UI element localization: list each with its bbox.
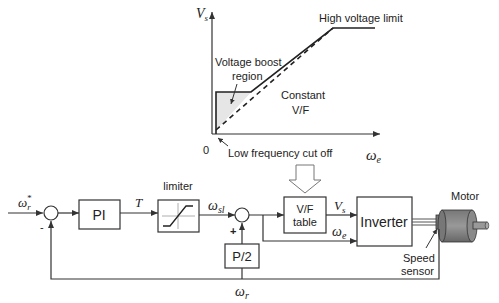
low-freq-cutoff-label: Low frequency cut off	[228, 147, 333, 159]
voltage-boost-label-2: region	[232, 70, 263, 82]
we-label: ωe	[332, 224, 347, 241]
vf-control-diagram: Vs ωe 0 High voltage limit Voltage boost…	[0, 0, 499, 303]
high-voltage-limit-label: High voltage limit	[319, 12, 403, 24]
summing-junction-2	[235, 208, 249, 222]
block-diagram: ωr* - PI T limiter ωsl + P/2 V/F	[8, 180, 489, 301]
three-phase-lines	[412, 219, 437, 225]
low-freq-pointer-arrow	[218, 138, 228, 146]
speed-sensor-label-1: Speed	[403, 252, 435, 264]
motor-label: Motor	[451, 190, 479, 202]
torque-label: T	[135, 195, 143, 210]
origin-label: 0	[203, 144, 209, 156]
constant-vf-label-2: V/F	[292, 104, 309, 116]
vs-label: Vs	[334, 198, 346, 215]
vf-curve-graph: Vs ωe 0 High voltage limit Voltage boost…	[196, 6, 403, 165]
inverter-label: Inverter	[360, 214, 408, 230]
summing-junction-1	[44, 206, 58, 220]
boost-region-fill-2	[216, 92, 251, 130]
minus-sign: -	[40, 221, 44, 233]
plus-sign: +	[230, 225, 236, 237]
y-axis-label: Vs	[196, 6, 209, 23]
motor-icon	[436, 210, 489, 242]
pi-block-label: PI	[92, 207, 105, 223]
vf-table-label-1: V/F	[296, 203, 313, 215]
speed-sensor-pointer	[426, 229, 437, 248]
vf-table-label-2: table	[293, 216, 317, 228]
input-reference-label: ωr*	[18, 193, 32, 212]
constant-vf-label-1: Constant	[281, 89, 325, 101]
speed-sensor-label-2: sensor	[401, 265, 434, 277]
x-axis-label: ωe	[366, 147, 382, 165]
feedback-speed-label: ωr	[235, 284, 249, 301]
voltage-boost-label-1: Voltage boost	[215, 56, 282, 68]
graph-to-table-arrow	[289, 165, 321, 193]
p-over-2-label: P/2	[232, 249, 252, 264]
limiter-title: limiter	[163, 180, 193, 192]
slip-label: ωsl	[208, 198, 225, 215]
